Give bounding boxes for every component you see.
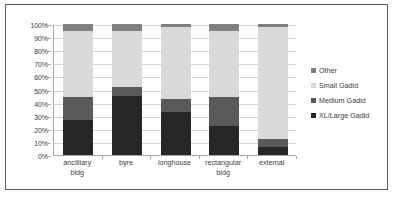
legend-swatch-icon [311,98,316,103]
bar-segment[interactable] [112,87,142,96]
bar-segment[interactable] [63,120,93,155]
bar-group[interactable] [258,24,288,155]
x-axis-tick-label: longhouse [150,158,199,168]
y-axis-tick-mark [48,117,51,118]
y-axis-tick-mark [48,25,51,26]
y-axis-tick-mark [48,130,51,131]
y-axis-tick-label: 20% [34,126,48,133]
y-axis-tick-label: 40% [34,100,48,107]
x-axis-tick-label: byre [102,158,151,168]
y-axis-tick-mark [48,64,51,65]
bar-segment[interactable] [258,147,288,155]
chart-plot-frame: 0%10%20%30%40%50%60%70%80%90%100% ancill… [5,4,388,190]
y-axis-tick-label: 90% [34,35,48,42]
bar-segment[interactable] [258,139,288,147]
x-axis-tick-label-line: external [247,158,296,168]
legend-item-label: Small Gadid [319,81,358,90]
bar-segment[interactable] [161,112,191,155]
chart-container: 0%10%20%30%40%50%60%70%80%90%100% ancill… [0,0,394,199]
legend-item-label: Other [319,66,337,75]
legend-swatch-icon [311,68,316,73]
bar-segment[interactable] [112,96,142,155]
x-axis-tick-label: rectangularbldg [199,158,248,177]
y-axis-tick-label: 50% [34,87,48,94]
chart-legend: OtherSmall GadidMedium GadidXL/Large Gad… [311,63,391,123]
x-axis-tick-label: external [247,158,296,168]
bar-segment[interactable] [112,31,142,87]
y-axis-tick-label: 70% [34,61,48,68]
legend-item[interactable]: XL/Large Gadid [311,108,391,122]
x-axis-tick-label-line: rectangular [199,158,248,168]
bar-segment[interactable] [161,27,191,99]
bar-stack [161,24,191,155]
y-axis-tick-label: 0% [38,153,48,160]
y-axis-tick-mark [48,77,51,78]
legend-item[interactable]: Medium Gadid [311,93,391,107]
legend-swatch-icon [311,113,316,118]
bar-segment[interactable] [63,31,93,98]
x-axis-tick-label-line: byre [102,158,151,168]
legend-item[interactable]: Small Gadid [311,78,391,92]
y-axis-tick-label: 10% [34,139,48,146]
bar-stack [63,24,93,155]
y-axis: 0%10%20%30%40%50%60%70%80%90%100% [11,25,51,156]
bar-segment[interactable] [209,31,239,98]
x-axis: ancilliarybldgbyrelonghouserectangularbl… [53,158,296,190]
y-axis-tick-mark [48,156,51,157]
plot-area [53,25,296,156]
x-axis-tick-label-line: bldg [53,168,102,178]
legend-item[interactable]: Other [311,63,391,77]
y-axis-tick-label: 30% [34,113,48,120]
y-axis-tick-mark [48,51,51,52]
bar-group[interactable] [161,24,191,155]
y-axis-tick-mark [48,91,51,92]
x-axis-tick-label-line: bldg [199,168,248,178]
x-axis-tick-label-line: ancilliary [53,158,102,168]
bar-stack [209,24,239,155]
legend-item-label: XL/Large Gadid [319,111,369,120]
x-axis-tick-label: ancilliarybldg [53,158,102,177]
x-axis-tick-mark [296,156,297,159]
y-axis-tick-label: 80% [34,48,48,55]
y-axis-tick-mark [48,104,51,105]
y-axis-tick-label: 60% [34,74,48,81]
legend-swatch-icon [311,83,316,88]
bar-stack [112,24,142,155]
bar-segment[interactable] [209,97,239,126]
bar-group[interactable] [112,24,142,155]
x-axis-tick-label-line: longhouse [150,158,199,168]
y-axis-tick-mark [48,143,51,144]
bar-segment[interactable] [258,27,288,140]
bar-segment[interactable] [209,126,239,155]
legend-item-label: Medium Gadid [319,96,366,105]
bar-group[interactable] [209,24,239,155]
bar-segment[interactable] [63,97,93,119]
bar-segment[interactable] [161,99,191,111]
y-axis-tick-mark [48,38,51,39]
bar-stack [258,24,288,155]
bar-group[interactable] [63,24,93,155]
y-axis-tick-label: 100% [30,22,48,29]
